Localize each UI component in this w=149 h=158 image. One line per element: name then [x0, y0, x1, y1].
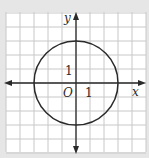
y-axis-label: y [63, 11, 71, 25]
y-tick-label: 1 [65, 64, 73, 78]
origin-label: O [63, 86, 73, 100]
x-tick-label: 1 [85, 86, 93, 100]
coordinate-plane-figure: y x O 1 1 [0, 0, 149, 158]
x-axis-label: x [132, 85, 139, 99]
